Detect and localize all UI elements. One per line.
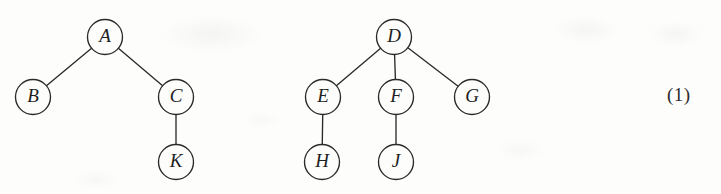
tree-edge-a-c [118, 48, 162, 85]
node-label-b: B [27, 85, 39, 106]
tree-node-h: H [305, 145, 340, 180]
node-label-c: C [170, 85, 183, 106]
tree-node-k: K [159, 145, 194, 180]
node-label-e: E [316, 85, 329, 106]
node-label-d: D [386, 25, 401, 46]
node-label-h: H [314, 150, 330, 171]
tree-edge-a-b [46, 48, 91, 86]
tree-edge-d-f [395, 54, 396, 79]
tree-node-f: F [379, 80, 414, 115]
tree-edge-d-g [408, 48, 458, 87]
node-layer: ABCKDEFGHJ [16, 20, 490, 180]
node-label-a: A [97, 25, 111, 46]
tree-graph-canvas: ABCKDEFGHJ [0, 0, 721, 194]
tree-node-g: G [455, 80, 490, 115]
tree-edge-d-e [336, 48, 380, 85]
tree-node-c: C [159, 80, 194, 115]
tree-node-b: B [16, 80, 51, 115]
node-label-f: F [389, 85, 402, 106]
tree-node-a: A [88, 20, 123, 55]
tree-node-d: D [377, 20, 412, 55]
tree-node-j: J [379, 145, 414, 180]
tree-figure: ABCKDEFGHJ (1) [0, 0, 721, 194]
node-label-k: K [169, 150, 184, 171]
equation-number: (1) [667, 84, 690, 106]
node-label-g: G [465, 85, 479, 106]
tree-node-e: E [306, 80, 341, 115]
